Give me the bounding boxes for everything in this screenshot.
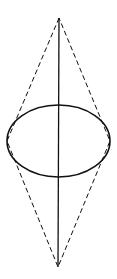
diagram-canvas	[0, 0, 117, 279]
vertical-axis-line	[58, 18, 59, 267]
double-cone-figure	[0, 0, 117, 279]
